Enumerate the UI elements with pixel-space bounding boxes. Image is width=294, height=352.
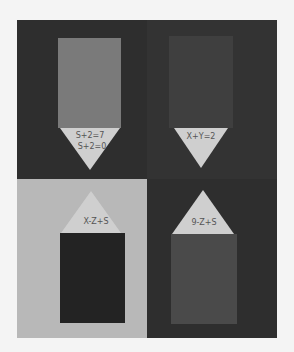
label-top-left-1: S+2=7 bbox=[75, 131, 105, 140]
label-bottom-right: 9-Z+S bbox=[187, 218, 221, 227]
label-bottom-left: X-Z+S bbox=[78, 217, 114, 226]
triangle-bottom-left bbox=[61, 191, 121, 233]
triangle-bottom-right bbox=[172, 190, 234, 234]
label-top-left-2: S+2=0 bbox=[77, 142, 107, 151]
rect-bottom-left bbox=[60, 233, 125, 323]
board: S+2=7 S+2=0 X+Y=2 X-Z+S 9-Z+S bbox=[17, 20, 277, 338]
rect-bottom-right bbox=[171, 234, 237, 324]
label-top-right: X+Y=2 bbox=[185, 132, 217, 141]
rect-top-right bbox=[169, 36, 233, 128]
rect-top-left bbox=[58, 38, 121, 128]
